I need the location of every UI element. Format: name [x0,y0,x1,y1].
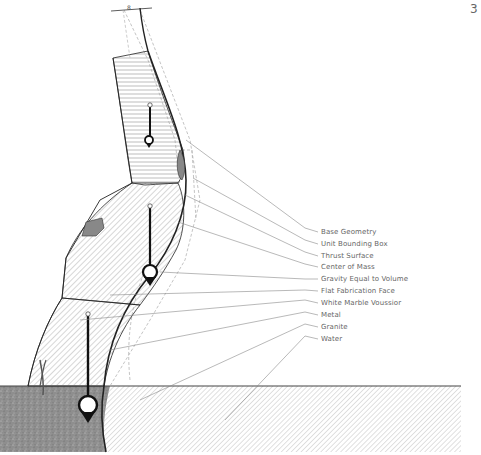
top-segment: 8 [111,4,152,58]
granite-base [0,386,110,452]
legend-unit-bounding-box: Unit Bounding Box [321,240,388,248]
legend-center-of-mass: Center of Mass [321,263,375,271]
legend-water: Water [321,335,342,343]
legend-white-marble-voussoir: White Marble Voussior [321,299,401,307]
legend-base-geometry: Base Geometry [321,228,376,236]
svg-text:8: 8 [127,4,131,11]
water-region [100,386,461,452]
legend-gravity-equal-to-volume: Gravity Equal to Volume [321,275,408,283]
voussoir-column-diagram: 8 [0,0,481,455]
lower-voussoir [28,298,140,386]
page-number: 3 [470,2,478,16]
legend-granite: Granite [321,323,348,331]
legend-flat-fabrication-face: Flat Fabrication Face [321,287,395,295]
middle-voussoir [62,183,184,305]
legend-metal: Metal [321,311,341,319]
legend-thrust-surface: Thrust Surface [321,252,374,260]
